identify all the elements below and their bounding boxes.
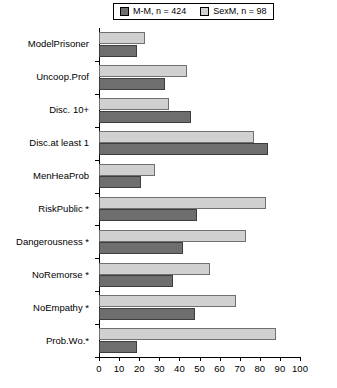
bar-m-m-4 <box>99 176 141 188</box>
y-axis-tick-2 <box>95 127 99 128</box>
bar-sexm-8 <box>99 295 236 307</box>
dark-square-icon <box>120 7 129 16</box>
category-label-4: MenHeaProb <box>33 170 89 181</box>
bar-m-m-9 <box>99 341 137 353</box>
bar-sexm-1 <box>99 65 187 77</box>
y-axis-tick-7 <box>95 291 99 292</box>
bar-sexm-3 <box>99 131 254 143</box>
bar-sexm-2 <box>99 98 169 110</box>
legend-label-sexm: SexM, n = 98 <box>213 6 266 16</box>
y-axis-tick-6 <box>95 258 99 259</box>
legend-entry-sexm: SexM, n = 98 <box>200 6 266 16</box>
chart-legend: M-M, n = 424 SexM, n = 98 <box>113 3 274 20</box>
category-label-7: NoRemorse * <box>32 269 89 280</box>
category-label-2: Disc. 10+ <box>49 104 89 115</box>
bar-sexm-0 <box>99 32 145 44</box>
x-axis-tick-80 <box>260 357 261 361</box>
category-label-1: Uncoop.Prof <box>36 71 89 82</box>
bar-m-m-3 <box>99 143 268 155</box>
x-axis-tick-50 <box>200 357 201 361</box>
x-axis-tick-0 <box>99 357 100 361</box>
bar-m-m-6 <box>99 242 183 254</box>
bar-chart: M-M, n = 424 SexM, n = 98 ModelPrisonerU… <box>0 0 337 388</box>
x-axis-tick-10 <box>119 357 120 361</box>
category-label-3: Disc.at least 1 <box>29 137 89 148</box>
legend-label-mm: M-M, n = 424 <box>133 6 186 16</box>
category-label-5: RiskPublic * <box>38 203 89 214</box>
bar-sexm-9 <box>99 328 276 340</box>
legend-entry-mm: M-M, n = 424 <box>120 6 186 16</box>
y-axis-tick-1 <box>95 94 99 95</box>
plot-area <box>99 28 300 357</box>
category-label-6: Dangerousness * <box>16 236 89 247</box>
bar-m-m-2 <box>99 111 191 123</box>
bar-m-m-7 <box>99 275 173 287</box>
y-axis-tick-0 <box>95 61 99 62</box>
x-axis-tick-70 <box>240 357 241 361</box>
category-label-9: Prob.Wo.* <box>46 335 89 346</box>
x-axis-tick-40 <box>179 357 180 361</box>
x-axis-tick-20 <box>139 357 140 361</box>
bar-sexm-4 <box>99 164 155 176</box>
x-axis-tick-100 <box>300 357 301 361</box>
bar-m-m-8 <box>99 308 195 320</box>
category-label-0: ModelPrisoner <box>28 38 89 49</box>
y-axis-tick-4 <box>95 193 99 194</box>
category-label-8: NoEmpathy * <box>33 302 89 313</box>
y-axis-category-labels: ModelPrisonerUncoop.ProfDisc. 10+Disc.at… <box>0 28 95 358</box>
x-axis-tick-30 <box>159 357 160 361</box>
bar-m-m-1 <box>99 78 165 90</box>
x-axis-tick-60 <box>220 357 221 361</box>
y-axis-tick-3 <box>95 160 99 161</box>
bar-sexm-5 <box>99 197 266 209</box>
x-axis-tick-90 <box>280 357 281 361</box>
y-axis-tick-8 <box>95 324 99 325</box>
light-square-icon <box>200 7 209 16</box>
bar-sexm-7 <box>99 263 210 275</box>
bar-m-m-5 <box>99 209 197 221</box>
y-axis-tick-9 <box>95 357 99 358</box>
bar-m-m-0 <box>99 45 137 57</box>
bar-sexm-6 <box>99 230 246 242</box>
x-axis-tick-label-100: 100 <box>288 363 312 374</box>
y-axis-tick-5 <box>95 225 99 226</box>
